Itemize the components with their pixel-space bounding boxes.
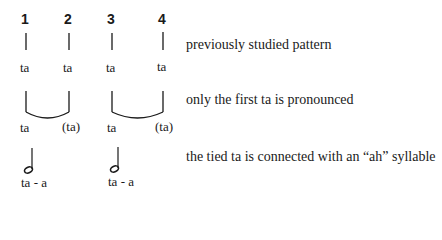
syllable-ta-a-1: ta - a <box>21 175 47 191</box>
syllable-ta-silent-2: (ta) <box>155 119 173 135</box>
syllable-ta-2: ta <box>63 60 72 76</box>
row-3-description: the tied ta is connected with an “ah” sy… <box>186 149 436 165</box>
syllable-ta-4: ta <box>157 59 166 75</box>
quarter-stems-icon <box>26 32 163 50</box>
syllable-ta-3: ta <box>106 60 115 76</box>
tie-icon <box>26 91 163 118</box>
syllable-ta-tied-1: ta <box>20 120 29 136</box>
row-2-description: only the first ta is pronounced <box>186 92 354 108</box>
syllable-ta-silent-1: (ta) <box>62 119 80 135</box>
half-note-icon <box>24 147 120 174</box>
syllable-ta-tied-2: ta <box>107 120 116 136</box>
syllable-ta-1: ta <box>20 60 29 76</box>
row-1-description: previously studied pattern <box>186 37 331 53</box>
syllable-ta-a-2: ta - a <box>108 174 134 190</box>
